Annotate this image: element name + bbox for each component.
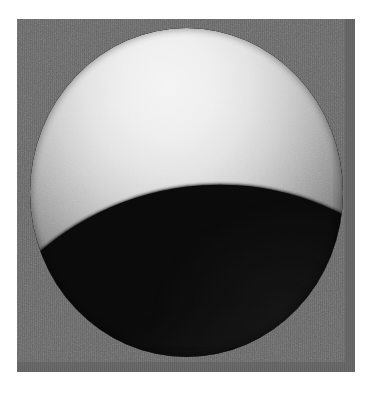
figure-root: A grainy grayscale photograph of a matte… <box>0 0 371 395</box>
photographic-plate <box>17 19 355 372</box>
sphere <box>30 28 343 357</box>
